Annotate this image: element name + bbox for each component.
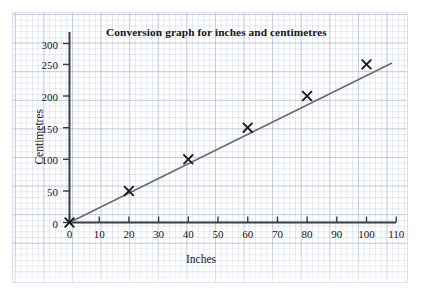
x-tick-label-20: 20 — [117, 229, 141, 240]
chart-title: Conversion graph for inches and centimet… — [106, 27, 327, 38]
y-tick-label-250: 250 — [28, 60, 58, 71]
data-point-80-200 — [303, 92, 312, 101]
graph-screenshot: Conversion graph for inches and centimet… — [0, 0, 425, 295]
data-point-40-100 — [184, 155, 193, 164]
x-axis-title: Inches — [186, 254, 216, 266]
conversion-graph-plot — [0, 0, 425, 295]
x-tick-label-0: 0 — [58, 229, 82, 240]
x-tick-label-110: 110 — [384, 229, 408, 240]
x-tick-label-40: 40 — [176, 229, 200, 240]
data-point-60-150 — [243, 123, 252, 132]
x-tick-label-90: 90 — [325, 229, 349, 240]
x-tick-label-100: 100 — [355, 229, 379, 240]
x-tick-label-60: 60 — [236, 229, 260, 240]
x-tick-label-80: 80 — [295, 229, 319, 240]
x-tick-label-10: 10 — [87, 229, 111, 240]
x-tick-label-50: 50 — [206, 229, 230, 240]
y-axis-title: Centimetres — [34, 92, 46, 182]
data-point-100-250 — [362, 60, 371, 69]
x-tick-label-70: 70 — [265, 229, 289, 240]
conversion-line — [70, 63, 393, 223]
y-tick-label-300: 300 — [28, 40, 58, 51]
x-tick-label-30: 30 — [147, 229, 171, 240]
y-tick-label-0: 0 — [28, 219, 58, 230]
y-tick-label-50: 50 — [28, 187, 58, 198]
